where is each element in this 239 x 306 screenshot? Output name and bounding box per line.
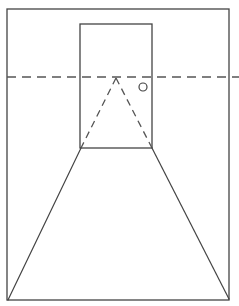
door <box>80 24 152 148</box>
floor-line-right <box>152 148 229 299</box>
guide-line-left <box>81 78 116 148</box>
door-knob-icon <box>139 83 147 91</box>
outer-frame <box>7 9 229 300</box>
floor-line-left <box>8 148 81 300</box>
perspective-diagram <box>0 0 239 306</box>
diagram-svg <box>0 0 239 306</box>
